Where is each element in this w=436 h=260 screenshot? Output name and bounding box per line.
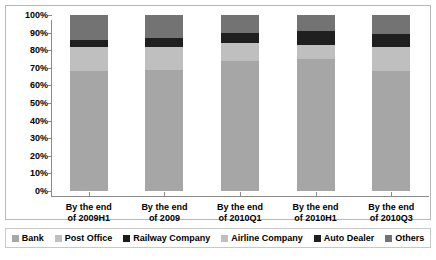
legend-label: Auto Dealer <box>324 234 375 243</box>
bar-segment-auto-dealer <box>297 31 335 45</box>
x-axis-tick <box>89 192 90 196</box>
bar-segment-airline-company <box>372 47 410 72</box>
plot-area: 100%90%80%70%60%50%40%30%20%10%0% By the… <box>5 5 431 220</box>
bar-stack <box>372 15 410 191</box>
legend-item[interactable]: Auto Dealer <box>314 234 375 243</box>
bar-segment-bank <box>70 71 108 191</box>
legend-item[interactable]: Airline Company <box>221 234 303 243</box>
x-axis-category-label: By the endof 2010H1 <box>278 202 354 224</box>
legend-swatch-icon <box>123 235 130 242</box>
bar-segment-others <box>372 15 410 34</box>
bar-segment-bank <box>221 61 259 191</box>
bar-segment-auto-dealer <box>145 38 183 47</box>
category-label-line: of 2010H1 <box>278 213 354 224</box>
bar-segment-bank <box>372 71 410 191</box>
bar-segment-airline-company <box>70 47 108 72</box>
category-label-line: of 2009H1 <box>51 213 127 224</box>
x-axis-category-labels: By the endof 2009H1By the endof 2009By t… <box>6 202 436 228</box>
legend-label: Others <box>395 234 424 243</box>
bar-segment-others <box>297 15 335 31</box>
bar-stack <box>297 15 335 191</box>
legend-swatch-icon <box>221 235 228 242</box>
category-label-line: of 2010Q3 <box>353 213 429 224</box>
bar-stack <box>70 15 108 191</box>
legend-label: Bank <box>22 234 44 243</box>
category-label-line: By the end <box>202 202 278 213</box>
legend-swatch-icon <box>55 235 62 242</box>
category-label-line: of 2009 <box>127 213 203 224</box>
category-label-line: of 2010Q1 <box>202 213 278 224</box>
stacked-bar-chart: 100%90%80%70%60%50%40%30%20%10%0% By the… <box>0 0 436 260</box>
legend-label: Railway Company <box>133 234 210 243</box>
bar-segment-auto-dealer <box>70 40 108 47</box>
category-label-line: By the end <box>127 202 203 213</box>
bar-segment-airline-company <box>145 47 183 70</box>
bar-segment-bank <box>145 70 183 191</box>
x-axis-category-label: By the endof 2009H1 <box>51 202 127 224</box>
legend-swatch-icon <box>385 235 392 242</box>
legend-swatch-icon <box>314 235 321 242</box>
bar-segment-bank <box>297 59 335 191</box>
bar-segment-airline-company <box>221 43 259 61</box>
legend-item[interactable]: Others <box>385 234 424 243</box>
legend-item[interactable]: Post Office <box>55 234 113 243</box>
bar-segment-others <box>145 15 183 38</box>
x-axis-tick <box>316 192 317 196</box>
bar-segment-others <box>70 15 108 40</box>
bar-segment-auto-dealer <box>372 34 410 46</box>
bars-layer <box>6 6 436 221</box>
legend-item[interactable]: Bank <box>12 234 44 243</box>
bar-segment-others <box>221 15 259 33</box>
bar-stack <box>145 15 183 191</box>
legend-label: Post Office <box>65 234 113 243</box>
x-axis-category-label: By the endof 2009 <box>127 202 203 224</box>
chart-legend: BankPost OfficeRailway CompanyAirline Co… <box>5 228 431 248</box>
legend-item[interactable]: Railway Company <box>123 234 210 243</box>
legend-swatch-icon <box>12 235 19 242</box>
category-label-line: By the end <box>278 202 354 213</box>
legend-label: Airline Company <box>231 234 303 243</box>
bar-segment-auto-dealer <box>221 33 259 44</box>
x-axis-tick <box>391 192 392 196</box>
category-label-line: By the end <box>51 202 127 213</box>
x-axis-category-label: By the endof 2010Q1 <box>202 202 278 224</box>
category-label-line: By the end <box>353 202 429 213</box>
x-axis-tick <box>164 192 165 196</box>
bar-segment-airline-company <box>297 45 335 59</box>
bar-stack <box>221 15 259 191</box>
x-axis-category-label: By the endof 2010Q3 <box>353 202 429 224</box>
x-axis-tick <box>240 192 241 196</box>
